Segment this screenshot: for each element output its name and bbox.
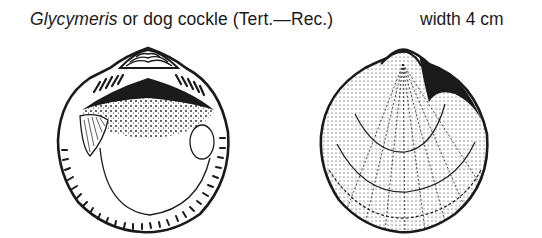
shell-interior-illustration — [50, 40, 240, 238]
common-name-and-range: or dog cockle (Tert.—Rec.) — [118, 9, 334, 29]
size-label: width 4 cm — [420, 9, 504, 30]
figure-caption: Glycymeris or dog cockle (Tert.—Rec.) — [30, 9, 333, 30]
shell-exterior-illustration — [315, 44, 495, 238]
genus-name: Glycymeris — [30, 9, 118, 29]
